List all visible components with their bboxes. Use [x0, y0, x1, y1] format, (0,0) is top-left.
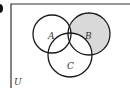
- universe-label: U: [14, 77, 22, 87]
- set-a-label: A: [47, 31, 55, 41]
- shaded-region-b-only: [0, 0, 130, 88]
- set-c-label: C: [67, 61, 74, 71]
- venn-diagram: A B C U: [0, 0, 130, 88]
- set-b-label: B: [84, 31, 92, 41]
